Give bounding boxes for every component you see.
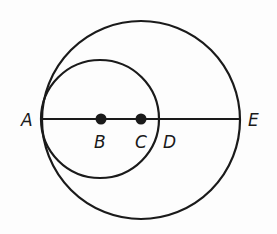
geometry-diagram: A B C D E bbox=[0, 0, 277, 234]
label-d: D bbox=[163, 132, 176, 152]
point-b-dot bbox=[96, 114, 107, 125]
label-b: B bbox=[94, 132, 106, 152]
label-c: C bbox=[135, 132, 147, 152]
diagram-svg: A B C D E bbox=[0, 0, 277, 234]
label-a: A bbox=[20, 110, 33, 130]
label-e: E bbox=[248, 110, 259, 130]
point-c-dot bbox=[136, 114, 147, 125]
